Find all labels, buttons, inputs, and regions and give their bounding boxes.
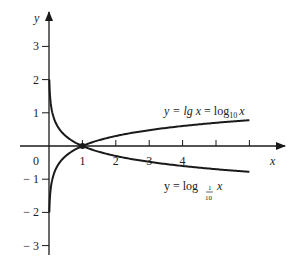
y-axis-label: y: [33, 11, 40, 25]
y-tick-label: 1: [33, 106, 39, 120]
series-label-log-one-tenth: y = log 1 10 x: [164, 179, 223, 202]
label-sub-denominator: 10: [205, 194, 213, 202]
chart-canvas: 1234 321− 1− 2− 3 y x 0 y = lg x = log10…: [0, 0, 298, 268]
label-subscript: 10: [229, 111, 237, 120]
y-tick-label: − 3: [23, 239, 39, 253]
label-mid: = log: [201, 104, 229, 118]
label-sub-numerator: 1: [208, 184, 212, 192]
label-var: x: [238, 104, 245, 118]
label-prefix: y = log: [164, 179, 198, 193]
log-function-chart: 1234 321− 1− 2− 3 y x 0 y = lg x = log10…: [0, 0, 298, 268]
y-tick-label: 3: [33, 39, 39, 53]
y-tick-label: 2: [33, 73, 39, 87]
label-var: x: [216, 179, 223, 193]
x-tick-label: 1: [79, 154, 85, 168]
x-axis-label: x: [269, 154, 276, 168]
intersection-point: [80, 143, 86, 149]
y-tick-label: − 1: [23, 172, 39, 186]
origin-label: 0: [33, 154, 39, 168]
label-prefix: y = lg: [163, 104, 196, 118]
series-label-log10: y = lg x = log10x: [163, 104, 245, 120]
y-tick-label: − 2: [23, 205, 39, 219]
